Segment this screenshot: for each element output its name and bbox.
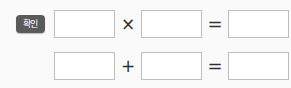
equation-row-addition: + =	[16, 50, 289, 82]
equation-row-multiplication: 확인 × = ,	[16, 8, 289, 40]
operator-plus: +	[115, 52, 141, 80]
operator-multiply: ×	[115, 10, 141, 38]
trailing-comma-row1: ,	[289, 10, 291, 38]
answer-box-row1-operand2[interactable]	[141, 10, 202, 38]
answer-box-row2-result[interactable]	[228, 52, 289, 80]
math-worksheet: 확인 × = , + =	[0, 0, 291, 88]
check-badge[interactable]: 확인	[16, 15, 45, 33]
answer-box-row2-operand1[interactable]	[54, 52, 115, 80]
operator-equals-row2: =	[202, 52, 228, 80]
answer-box-row1-operand1[interactable]	[54, 10, 115, 38]
operator-equals-row1: =	[202, 10, 228, 38]
answer-box-row1-result[interactable]	[228, 10, 289, 38]
answer-box-row2-operand2[interactable]	[141, 52, 202, 80]
